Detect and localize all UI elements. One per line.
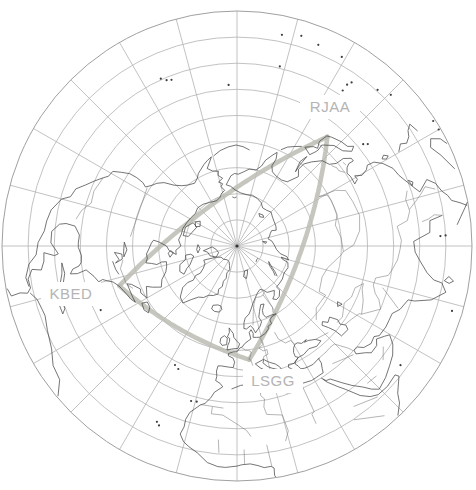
meridian-165	[237, 19, 298, 246]
graticule	[2, 11, 472, 481]
coastline-44	[114, 252, 122, 263]
border-11	[354, 397, 378, 407]
border-2	[76, 178, 103, 220]
border-28	[334, 344, 353, 351]
island-dot	[439, 235, 441, 237]
coastline-17	[322, 317, 348, 336]
island-dot	[281, 34, 283, 36]
island-dot	[160, 78, 162, 80]
island-dot	[170, 79, 172, 81]
coastline-15	[444, 277, 453, 284]
border-25	[397, 191, 410, 227]
coastline-23	[399, 124, 418, 152]
airport-label-kbed: KBED	[50, 285, 93, 302]
border-32	[315, 333, 328, 340]
island-dot	[390, 94, 392, 96]
island-dot	[228, 84, 230, 86]
coastline-16	[294, 339, 321, 357]
border-21	[337, 284, 364, 325]
island-dot	[346, 84, 348, 86]
island-dot	[190, 400, 192, 402]
island-dot	[342, 89, 344, 91]
border-4	[200, 405, 223, 409]
island-dot	[377, 89, 379, 91]
coastline-5	[227, 328, 240, 350]
airport-label-rjaa: RJAA	[310, 98, 350, 115]
border-31	[367, 376, 376, 383]
island-dot	[279, 65, 281, 67]
meridian-105	[237, 185, 464, 246]
island-dot	[166, 79, 168, 81]
polar-route-map: KBEDRJAALSGG	[0, 0, 476, 490]
island-dot	[158, 424, 160, 426]
border-12	[233, 368, 244, 370]
border-0	[130, 188, 147, 237]
meridian-255	[10, 185, 237, 246]
island-dot	[341, 56, 343, 58]
meridian-345	[176, 246, 237, 473]
coastline-39	[259, 214, 264, 218]
coastline-13	[323, 375, 400, 416]
route-edge-lsgg-kbed	[120, 286, 250, 360]
island-dot	[445, 234, 447, 236]
meridian-225	[71, 80, 237, 246]
island-dot	[367, 143, 369, 145]
island-dot	[317, 44, 319, 46]
coastline-22	[382, 155, 388, 159]
border-3	[211, 407, 251, 437]
island-dot	[438, 128, 440, 130]
border-6	[301, 384, 316, 424]
island-dot	[196, 401, 198, 403]
island-dot	[432, 120, 434, 122]
meridian-315	[71, 246, 237, 412]
meridian-195	[176, 19, 237, 246]
north-pole-dot	[235, 244, 238, 247]
island-dot	[100, 309, 102, 311]
border-9	[267, 445, 272, 467]
island-dot	[351, 81, 353, 83]
island-dot	[174, 364, 176, 366]
coastline-26	[457, 202, 467, 225]
coastline-43	[124, 242, 127, 257]
island-dot	[177, 368, 179, 370]
coastline-6	[220, 336, 227, 346]
coastline-12	[180, 387, 276, 477]
coastline-40	[232, 197, 236, 198]
border-35	[422, 215, 442, 222]
island-dot	[451, 310, 453, 312]
island-dot	[362, 143, 364, 145]
coastline-25	[431, 139, 455, 169]
island-dot	[399, 364, 401, 366]
coastline-42	[214, 145, 250, 156]
border-34	[343, 162, 346, 165]
airport-label-lsgg: LSGG	[251, 372, 295, 389]
border-24	[376, 226, 402, 278]
border-7	[218, 440, 219, 453]
border-16	[263, 292, 273, 313]
border-20	[319, 190, 360, 251]
screenshot-canvas: KBEDRJAALSGG	[0, 0, 476, 490]
island-dot	[156, 421, 158, 423]
border-8	[244, 450, 245, 464]
island-dot	[300, 35, 302, 37]
